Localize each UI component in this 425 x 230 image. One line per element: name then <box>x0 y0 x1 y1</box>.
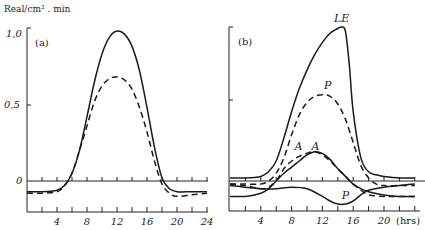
panel-a-solid-curve <box>27 31 207 192</box>
panel-b-label: (b) <box>238 36 252 47</box>
panel-b-curve-labels: LEPAAP <box>294 12 350 202</box>
curve-label: A <box>310 140 319 153</box>
x-tick-label: 12 <box>316 215 329 226</box>
panel-b: 48121620 (b) (hrs) LEPAAP <box>229 12 425 226</box>
x-tick-label: 16 <box>347 215 360 226</box>
panel-b-A-solid-curve <box>230 152 415 197</box>
x-tick-label: 8 <box>288 215 294 226</box>
x-tick-label: 8 <box>84 216 90 227</box>
figure: Real/cm² . min 1,0 0,5 0 4812162024 (a) … <box>0 0 425 230</box>
panel-a-ytick-label-0: 0 <box>16 175 23 186</box>
y-axis-label: Real/cm² . min <box>4 4 71 14</box>
curve-label: P <box>323 79 332 92</box>
x-tick-label: 4 <box>257 215 264 226</box>
x-tick-label: 12 <box>111 216 124 227</box>
x-tick-label: 20 <box>377 215 391 226</box>
panel-a-ytick-label-0.5: 0,5 <box>4 99 20 110</box>
x-unit-label: (hrs) <box>396 215 420 226</box>
panel-b-LE-curve <box>230 27 415 178</box>
x-tick-label: 24 <box>200 216 214 227</box>
panel-b-A-dashed-curve <box>230 152 415 197</box>
curve-label: P <box>341 189 350 202</box>
x-tick-label: 4 <box>53 216 60 227</box>
x-tick-label: 20 <box>170 216 184 227</box>
panel-b-P-curve <box>230 95 415 186</box>
panel-a-x-ticks: 4812162024 <box>42 177 213 227</box>
panel-a: 1,0 0,5 0 4812162024 (a) <box>4 28 213 227</box>
x-tick-label: 16 <box>141 216 154 227</box>
panel-a-ytick-label-1: 1,0 <box>6 28 23 39</box>
curve-label: A <box>294 140 303 153</box>
panel-a-label: (a) <box>35 37 49 48</box>
curve-label: LE <box>333 12 349 25</box>
